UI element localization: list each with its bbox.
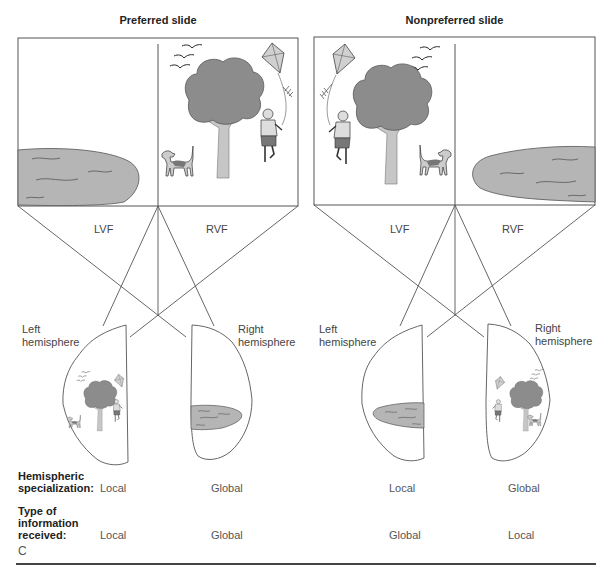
right-hemisphere-label-preferred: Right hemisphere bbox=[238, 323, 295, 349]
received-nonpreferred-right: Local bbox=[508, 529, 534, 541]
specialization-nonpreferred-right: Global bbox=[508, 482, 540, 494]
label-line: Right bbox=[535, 322, 592, 335]
received-row-label: Type of information received: bbox=[18, 505, 79, 541]
label-line: information bbox=[18, 517, 79, 529]
received-preferred-left: Local bbox=[100, 529, 126, 541]
label-line: specialization: bbox=[18, 482, 94, 494]
label-line: hemisphere bbox=[535, 335, 592, 348]
bottom-rule bbox=[16, 563, 596, 565]
label-line: hemisphere bbox=[238, 336, 295, 349]
specialization-preferred-left: Local bbox=[100, 482, 126, 494]
projection-lines-preferred bbox=[18, 206, 298, 337]
received-nonpreferred-left: Global bbox=[389, 529, 421, 541]
rvf-label-nonpreferred: RVF bbox=[502, 223, 524, 236]
projection-lines-nonpreferred bbox=[314, 205, 595, 337]
label-line: hemisphere bbox=[22, 336, 79, 349]
label-line: Left bbox=[319, 323, 376, 336]
specialization-preferred-right: Global bbox=[211, 482, 243, 494]
lvf-label-nonpreferred: LVF bbox=[390, 223, 409, 236]
specialization-row-label: Hemispheric specialization: bbox=[18, 470, 94, 494]
panel-letter: C bbox=[18, 544, 27, 558]
label-line: Left bbox=[22, 323, 79, 336]
left-hemisphere-label-preferred: Left hemisphere bbox=[22, 323, 79, 349]
label-line: Type of bbox=[18, 505, 79, 517]
left-hemisphere-label-nonpreferred: Left hemisphere bbox=[319, 323, 376, 349]
specialization-nonpreferred-left: Local bbox=[389, 482, 415, 494]
label-line: hemisphere bbox=[319, 336, 376, 349]
label-line: Hemispheric bbox=[18, 470, 94, 482]
received-preferred-right: Global bbox=[211, 529, 243, 541]
rvf-label-preferred: RVF bbox=[206, 223, 228, 236]
lvf-label-preferred: LVF bbox=[94, 223, 113, 236]
label-line: received: bbox=[18, 529, 79, 541]
right-hemisphere-label-nonpreferred: Right hemisphere bbox=[535, 322, 592, 348]
label-line: Right bbox=[238, 323, 295, 336]
